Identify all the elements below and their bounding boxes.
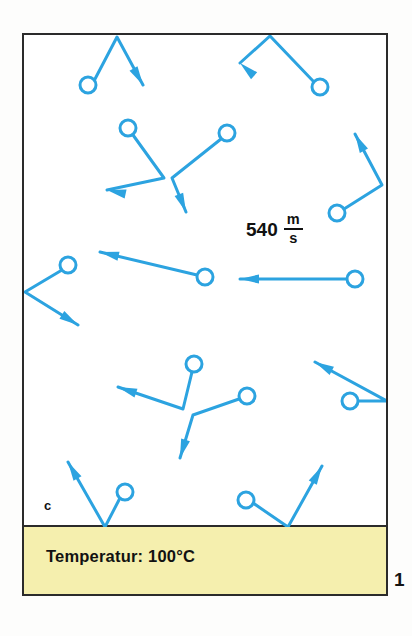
gas-container-box: c 540 m s Temperatur: 100°C	[22, 33, 388, 596]
temperature-bar: Temperatur: 100°C	[24, 525, 386, 594]
figure-root: c 540 m s Temperatur: 100°C 1	[0, 0, 412, 636]
speed-unit-denominator: s	[286, 230, 300, 246]
figure-number: 1	[394, 569, 405, 591]
speed-annotation: 540 m s	[246, 212, 303, 246]
speed-value: 540	[246, 220, 278, 239]
panel-letter: c	[44, 498, 51, 513]
temperature-label: Temperatur: 100°C	[46, 547, 195, 566]
speed-unit-numerator: m	[284, 212, 303, 228]
speed-unit-fraction: m s	[284, 212, 303, 246]
